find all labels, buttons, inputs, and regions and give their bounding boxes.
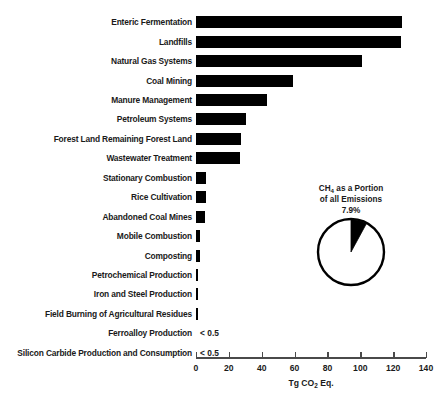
category-label: Field Burning of Agricultural Residues <box>45 309 192 319</box>
category-label: Stationary Combustion <box>103 173 192 183</box>
bar <box>196 75 293 87</box>
bar-value-label: < 0.5 <box>200 328 219 338</box>
x-axis-tick-label: 120 <box>386 363 400 373</box>
category-label: Abandoned Coal Mines <box>102 212 192 222</box>
bar <box>196 94 267 106</box>
bar <box>196 308 198 320</box>
category-label: Silicon Carbide Production and Consumpti… <box>17 348 192 358</box>
category-label: Mobile Combustion <box>117 231 192 241</box>
bar-row: Manure Management <box>0 90 439 109</box>
bar <box>196 36 401 48</box>
x-axis-tick <box>393 352 394 358</box>
x-axis-tick-label: 20 <box>224 363 234 373</box>
x-axis-tick-label: 100 <box>353 363 367 373</box>
category-label: Petroleum Systems <box>117 114 192 124</box>
category-label: Ferroalloy Production <box>108 328 192 338</box>
pie-chart-graphic <box>315 216 387 288</box>
x-axis-tick <box>426 352 427 358</box>
bar-row: Field Burning of Agricultural Residues <box>0 304 439 323</box>
bar-row: Petroleum Systems <box>0 110 439 129</box>
bar <box>196 230 200 242</box>
x-axis-tick <box>360 352 361 358</box>
category-label: Manure Management <box>111 95 192 105</box>
category-label: Petrochemical Production <box>92 270 192 280</box>
x-axis-tick-label: 40 <box>257 363 267 373</box>
category-label: Forest Land Remaining Forest Land <box>54 134 192 144</box>
bar <box>196 16 402 28</box>
x-axis-tick <box>327 352 328 358</box>
bar-row: Wastewater Treatment <box>0 149 439 168</box>
category-label: Coal Mining <box>146 76 192 86</box>
pie-caption-ch4-prefix: CH <box>319 184 331 193</box>
bar-row: Landfills <box>0 32 439 51</box>
x-axis-tick <box>262 352 263 358</box>
bar <box>196 152 240 164</box>
pie-caption-line-1: CH4 as a Portion <box>292 183 410 194</box>
category-label: Landfills <box>159 37 192 47</box>
bar-row: Ferroalloy Production< 0.5 <box>0 324 439 343</box>
x-axis-line <box>196 357 426 359</box>
x-axis-tick-label: 140 <box>419 363 433 373</box>
category-label: Enteric Fermentation <box>111 17 192 27</box>
bar <box>196 55 362 67</box>
pie-graphic-wrap <box>292 216 410 288</box>
x-axis-unit-subscript: 2 <box>314 382 318 389</box>
bar <box>196 250 200 262</box>
x-axis-unit-prefix: Tg CO <box>288 378 314 388</box>
pie-chart-inset: CH4 as a Portion of all Emissions 7.9% <box>292 183 410 288</box>
x-axis-tick-label: 0 <box>194 363 199 373</box>
bar-row: Coal Mining <box>0 71 439 90</box>
x-axis-label: Tg CO2 Eq. <box>196 378 426 388</box>
bar-row: Silicon Carbide Production and Consumpti… <box>0 343 439 362</box>
x-axis-tick-label: 60 <box>290 363 300 373</box>
bar-row: Forest Land Remaining Forest Land <box>0 129 439 148</box>
x-axis-tick-label: 80 <box>323 363 333 373</box>
x-axis-unit-suffix: Eq. <box>318 378 334 388</box>
bar-row: Enteric Fermentation <box>0 13 439 32</box>
x-axis-tick <box>229 352 230 358</box>
bar <box>196 113 246 125</box>
bar <box>196 133 241 145</box>
bar <box>196 191 206 203</box>
bar-row: Natural Gas Systems <box>0 51 439 70</box>
x-axis-tick <box>295 352 296 358</box>
category-label: Composting <box>145 251 192 261</box>
methane-emissions-bar-chart: Enteric FermentationLandfillsNatural Gas… <box>0 0 439 405</box>
pie-percent-label: 7.9% <box>292 206 410 215</box>
bar <box>196 172 206 184</box>
pie-caption-rest: as a Portion <box>334 184 383 193</box>
bar <box>196 288 198 300</box>
x-axis-tick <box>196 352 197 358</box>
bar <box>196 269 198 281</box>
category-label: Wastewater Treatment <box>106 153 192 163</box>
category-label: Rice Cultivation <box>131 192 192 202</box>
pie-caption-ch4-subscript: 4 <box>331 187 334 194</box>
pie-caption-line-2: of all Emissions <box>292 194 410 205</box>
category-label: Iron and Steel Production <box>94 289 192 299</box>
bar <box>196 211 205 223</box>
category-label: Natural Gas Systems <box>111 56 192 66</box>
